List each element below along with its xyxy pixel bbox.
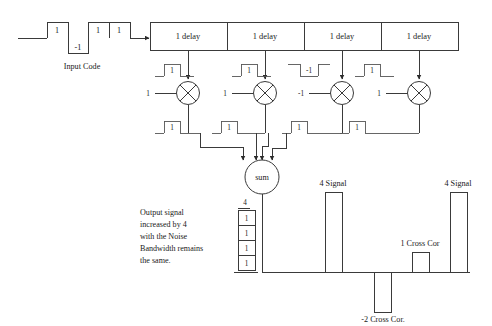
figure-canvas: 1 -1 1 1 Input Code 1 delay 1 delay 1 de… [0,0,492,326]
tap-2-product-chip: 1 [227,124,231,132]
tap-2-coefficient-chip: 1 [247,67,251,75]
input-chip-3-value: 1 [96,26,100,35]
output-stack-cell-4-value: 1 [245,260,249,268]
tap-4-coefficient-chip: 1 [370,67,374,75]
sum-label: sum [255,173,269,182]
delay-block-4-label: 1 delay [407,32,432,41]
output-stack-cell-2-value: 1 [245,230,249,238]
chart-bar-1-label: 4 Signal [319,179,347,188]
input-chip-4-value: 1 [117,26,121,35]
input-code-label: Input Code [64,62,101,71]
tap-1-multiplier-input-label: 1 [146,90,150,98]
input-chip-1-value: 1 [55,26,59,35]
note-line-5: the same. [140,256,171,265]
delay-block-3-label: 1 delay [330,32,355,41]
tap-4-multiplier-input-label: 1 [377,90,381,98]
chart-bar-2 [374,272,391,312]
tap-4-product-chip: 1 [355,124,359,132]
tap-1-product-chip: 1 [170,124,174,132]
note-line-1: Output signal [140,208,185,217]
output-stack-cell-3-value: 1 [245,245,249,253]
tap-4: 1 1 1 [262,50,431,160]
output-stack: 4 1 1 1 1 [234,199,258,272]
tap-3-multiplier-input-label: -1 [298,90,304,98]
tap-1: 1 1 1 [146,50,243,160]
chart-bar-4 [450,192,467,272]
input-chip-2-value: -1 [75,43,82,52]
output-note: Output signal increased by 4 with the No… [140,208,203,265]
note-line-2: increased by 4 [140,220,187,229]
note-line-4: Bandwidth remains [140,244,203,253]
tap-3-coefficient-chip: -1 [306,67,312,75]
chart-bar-3 [412,252,429,272]
chart-bar-4-label: 4 Signal [444,179,472,188]
chart-bar-2-label: -2 Cross Cor. [361,315,404,324]
diagram-svg: 1 -1 1 1 Input Code 1 delay 1 delay 1 de… [0,0,492,326]
delay-block-2-label: 1 delay [253,32,278,41]
delay-line: 1 delay 1 delay 1 delay 1 delay [150,22,458,50]
tap-3-product-chip: 1 [297,124,301,132]
tap-1-coefficient-chip: 1 [170,67,174,75]
output-stack-cell-1-value: 1 [245,215,249,223]
tap-2: 1 1 1 [212,50,277,160]
output-stack-total-label: 4 [243,199,247,207]
tap-3: -1 -1 1 [272,50,354,160]
correlator-output-chart: 4 Signal -2 Cross Cor. 1 Cross Cor 4 Sig… [262,179,472,324]
tap-2-multiplier-input-label: 1 [223,90,227,98]
note-line-3: with the Noise [140,232,188,241]
input-code-waveform: 1 -1 1 1 Input Code [18,22,149,71]
chart-bar-3-label: 1 Cross Cor [400,239,439,248]
delay-block-1-label: 1 delay [176,32,201,41]
chart-bar-1 [325,192,342,272]
